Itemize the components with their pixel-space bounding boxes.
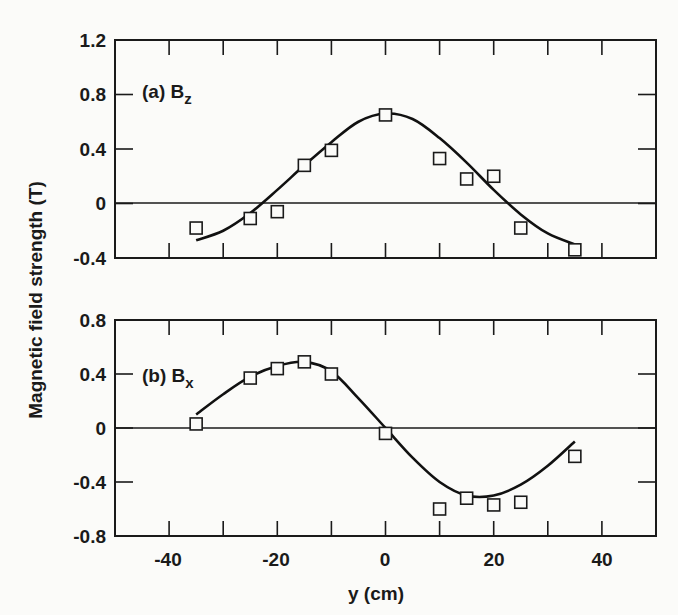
b-ytick-5: -0.8	[73, 526, 106, 547]
b-ytick-4: -0.4	[73, 472, 106, 493]
chart: Magnetic field strength (T) 1.2 0.8 0.4 …	[0, 0, 678, 615]
data-point-square	[515, 222, 527, 234]
a-ytick-5: -0.4	[73, 248, 106, 269]
panel-b-label: (b) Bx	[142, 365, 194, 391]
b-ytick-1: 0.8	[80, 310, 106, 331]
data-point-square	[569, 450, 581, 462]
data-point-square	[298, 159, 310, 171]
xtick-neg20: -20	[262, 549, 289, 570]
b-ytick-3: 0	[95, 418, 106, 439]
data-point-square	[488, 499, 500, 511]
data-point-square	[271, 206, 283, 218]
data-point-square	[298, 356, 310, 368]
y-axis-title: Magnetic field strength (T)	[25, 181, 46, 419]
data-point-square	[244, 372, 256, 384]
data-point-square	[461, 173, 473, 185]
data-point-square	[325, 144, 337, 156]
data-point-square	[325, 368, 337, 380]
data-point-square	[244, 212, 256, 224]
panel-b: 0.8 0.4 0 -0.4 -0.8 (b) Bx	[73, 310, 656, 547]
xtick-20: 20	[483, 549, 504, 570]
b-ytick-2: 0.4	[80, 364, 107, 385]
a-ytick-1: 1.2	[80, 30, 106, 51]
data-point-square	[190, 418, 202, 430]
data-point-square	[515, 496, 527, 508]
xtick-0: 0	[380, 549, 391, 570]
data-point-square	[271, 363, 283, 375]
a-ytick-2: 0.8	[80, 84, 106, 105]
panel-a: 1.2 0.8 0.4 0 -0.4 (a) Bz	[73, 30, 656, 269]
xtick-40: 40	[591, 549, 612, 570]
data-point-square	[434, 153, 446, 165]
panel-a-data-points	[190, 109, 581, 256]
a-ytick-3: 0.4	[80, 139, 107, 160]
a-ytick-4: 0	[95, 193, 106, 214]
data-point-square	[488, 170, 500, 182]
data-point-square	[461, 492, 473, 504]
data-point-square	[569, 244, 581, 256]
data-point-square	[380, 109, 392, 121]
data-point-square	[434, 503, 446, 515]
x-axis-title: y (cm)	[348, 583, 404, 604]
panel-b-data-points	[190, 356, 581, 515]
panel-a-label: (a) Bz	[142, 81, 192, 107]
data-point-square	[380, 427, 392, 439]
data-point-square	[190, 222, 202, 234]
xtick-neg40: -40	[154, 549, 181, 570]
